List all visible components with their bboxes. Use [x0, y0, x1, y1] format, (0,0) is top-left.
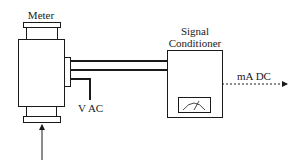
signal-conditioner: Signal Conditioner	[168, 25, 223, 118]
power-wire	[71, 79, 90, 100]
meter: Meter	[19, 9, 71, 160]
meter-top-neck	[27, 28, 58, 40]
meter-label: Meter	[28, 9, 55, 21]
meter-terminal-plate	[65, 58, 71, 87]
wiring: V AC	[71, 61, 167, 114]
supply-label: V AC	[78, 102, 103, 114]
gauge-icon	[179, 98, 211, 113]
meter-top-flange	[24, 23, 61, 28]
meter-bottom-flange	[24, 117, 61, 123]
meter-body	[19, 40, 65, 107]
diagram-canvas: Meter V AC Signal Conditioner mA DC	[0, 0, 303, 163]
signal-conditioner-label-line1: Signal	[181, 25, 209, 37]
signal-conditioner-label-line2: Conditioner	[169, 37, 222, 49]
meter-bottom-neck	[27, 107, 57, 117]
output-label: mA DC	[237, 70, 271, 82]
output: mA DC	[222, 70, 287, 84]
